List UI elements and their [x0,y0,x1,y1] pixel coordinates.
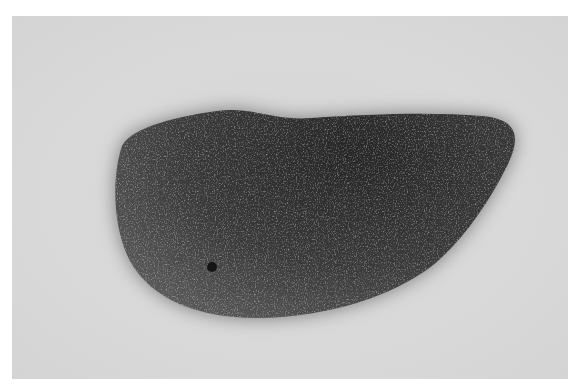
fibrous-mass [12,16,568,379]
photograph [12,16,568,379]
dark-spot [207,262,217,272]
